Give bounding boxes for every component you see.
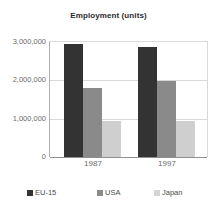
y-axis-tick-label: 1,000,000 — [2, 113, 46, 122]
chart-title: Employment (units) — [0, 11, 217, 20]
y-axis-tick-label: 0 — [2, 152, 46, 161]
bar-eu-15-1987 — [64, 44, 83, 157]
x-axis-tick-label: 1987 — [63, 159, 123, 168]
bar-group-1997 — [138, 42, 198, 157]
bars-layer — [50, 42, 207, 157]
plot-area — [49, 41, 208, 157]
bar-japan-1987 — [102, 121, 121, 157]
legend-label: USA — [105, 188, 120, 197]
y-axis: 3,000,000 2,000,000 1,000,000 0 — [0, 41, 46, 156]
legend-swatch-icon — [154, 190, 160, 196]
bar-usa-1997 — [157, 81, 176, 157]
legend-label: EU-15 — [35, 188, 56, 197]
chart-legend: EU-15 USA Japan — [0, 188, 217, 202]
bar-usa-1987 — [83, 88, 102, 157]
y-axis-tick-label: 2,000,000 — [2, 75, 46, 84]
bar-japan-1997 — [176, 121, 195, 157]
legend-item-eu-15[interactable]: EU-15 — [27, 188, 56, 197]
legend-item-usa[interactable]: USA — [97, 188, 120, 197]
legend-swatch-icon — [97, 190, 103, 196]
x-axis-line — [50, 157, 207, 158]
legend-swatch-icon — [27, 190, 33, 196]
legend-label: Japan — [162, 188, 182, 197]
y-axis-tick-label: 3,000,000 — [2, 37, 46, 46]
bar-eu-15-1997 — [138, 47, 157, 157]
x-axis: 1987 1997 — [49, 159, 206, 173]
x-axis-tick-label: 1997 — [137, 159, 197, 168]
bar-chart: Employment (units) 3,000,000 2,000,000 1… — [0, 0, 217, 212]
bar-group-1987 — [64, 42, 124, 157]
legend-item-japan[interactable]: Japan — [154, 188, 182, 197]
